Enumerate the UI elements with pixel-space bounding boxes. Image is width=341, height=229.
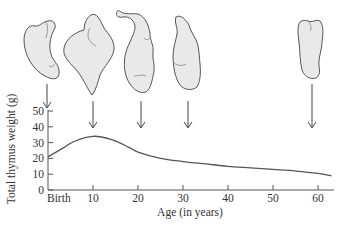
thymus-age20-illustration <box>116 11 154 93</box>
thymus-age30-illustration <box>173 16 200 89</box>
y-tick-label: 20 <box>33 152 45 164</box>
x-axis-title: Age (in years) <box>157 206 223 219</box>
y-tick-label: 0 <box>38 184 44 196</box>
y-tick-label: 30 <box>33 137 45 149</box>
y-tick-label: 40 <box>33 121 45 133</box>
x-tick-label: 60 <box>312 192 324 204</box>
thymus-age10-illustration <box>64 14 114 95</box>
arrow-birth <box>43 84 51 108</box>
x-ticks: Birth102030405060 <box>47 185 324 204</box>
x-tick-label: 40 <box>222 192 234 204</box>
x-tick-label: 50 <box>267 192 279 204</box>
thymus-weight-chart: 01020304050 Birth102030405060 Total thym… <box>0 0 341 229</box>
axes <box>48 110 334 190</box>
arrows <box>43 84 316 128</box>
x-tick-label: 10 <box>87 192 99 204</box>
thymus-birth-illustration <box>24 21 59 79</box>
arrow-age20 <box>137 101 145 128</box>
arrow-age30 <box>184 101 192 128</box>
y-tick-label: 50 <box>33 105 45 117</box>
arrow-age10 <box>89 101 97 128</box>
y-ticks: 01020304050 <box>33 105 54 196</box>
thymus-weight-curve <box>48 136 332 176</box>
y-tick-label: 10 <box>33 168 45 180</box>
thymus-age59-illustration <box>298 20 323 78</box>
thymus-illustrations <box>24 11 323 96</box>
x-tick-label: 30 <box>177 192 189 204</box>
y-axis-title: Total thymus weight (g) <box>5 94 18 205</box>
x-tick-label: Birth <box>47 192 71 204</box>
arrow-age59 <box>308 84 316 128</box>
x-tick-label: 20 <box>132 192 144 204</box>
